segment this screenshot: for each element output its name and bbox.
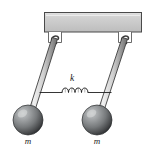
spring-coils bbox=[62, 88, 88, 93]
support-bar bbox=[45, 13, 142, 33]
right-bob-mass-label: m bbox=[94, 136, 101, 146]
left-bob bbox=[13, 105, 43, 135]
spring-constant-label: k bbox=[70, 73, 75, 83]
right-bob-sphere bbox=[82, 105, 112, 135]
left-bob-mass-label: m bbox=[25, 136, 32, 146]
coupling-spring bbox=[40, 88, 112, 93]
physics-figure-coupled-pendulums: k m m bbox=[0, 0, 146, 149]
diagram-canvas: k m m bbox=[0, 0, 146, 149]
left-bob-sphere bbox=[13, 105, 43, 135]
right-bob bbox=[82, 105, 112, 135]
